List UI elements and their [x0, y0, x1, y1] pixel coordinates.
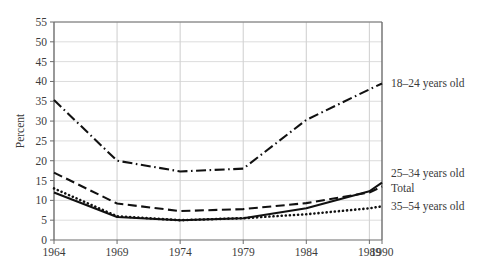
y-tick-label: 5: [41, 214, 47, 226]
y-axis-title: Percent: [14, 113, 26, 148]
y-tick-label: 35: [36, 95, 48, 107]
y-tick-label: 45: [36, 56, 48, 68]
chart-background: [0, 0, 495, 271]
y-tick-label: 15: [36, 175, 48, 187]
y-tick-label: 10: [36, 194, 48, 206]
x-tick-label: 1974: [169, 246, 192, 258]
x-tick-label: 1990: [371, 246, 394, 258]
y-tick-label: 25: [36, 135, 48, 147]
y-tick-label: 30: [36, 115, 48, 127]
chart-figure: 0510152025303540455055 19641969197419791…: [0, 0, 495, 271]
series-label-35-54-years-old: 35–54 years old: [391, 200, 465, 213]
y-tick-label: 55: [36, 16, 48, 28]
x-tick-label: 1984: [295, 246, 318, 258]
line-chart-svg: 0510152025303540455055 19641969197419791…: [0, 0, 495, 271]
series-label-25-34-years-old: 25–34 years old: [391, 167, 465, 180]
y-tick-label: 40: [36, 75, 48, 87]
y-tick-label: 50: [36, 36, 48, 48]
x-tick-label: 1969: [106, 246, 129, 258]
y-tick-label: 0: [41, 234, 47, 246]
series-label-18-24-years-old: 18–24 years old: [391, 77, 465, 90]
series-label-total: Total: [391, 182, 414, 194]
y-tick-label: 20: [36, 155, 48, 167]
x-tick-label: 1964: [43, 246, 66, 258]
x-tick-label: 1979: [232, 246, 255, 258]
